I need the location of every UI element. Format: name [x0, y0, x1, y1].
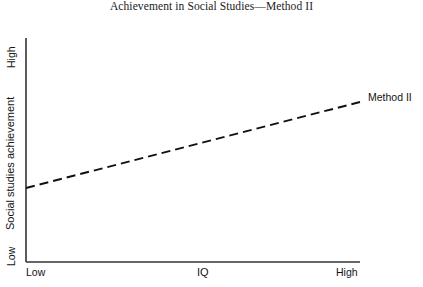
- x-axis-low-label: Low: [26, 266, 45, 278]
- series-annotation-method-ii: Method II: [368, 91, 412, 103]
- series-line-method-ii: [26, 102, 360, 188]
- chart-figure: Achievement in Social Studies—Method II …: [0, 0, 423, 287]
- y-axis-high-label: High: [5, 46, 17, 68]
- x-axis-high-label: High: [336, 266, 358, 278]
- plot-area: [0, 0, 423, 287]
- x-axis-title: IQ: [197, 266, 209, 278]
- y-axis-low-label: Low: [5, 247, 17, 266]
- y-axis-title: Social studies achievement: [4, 97, 16, 230]
